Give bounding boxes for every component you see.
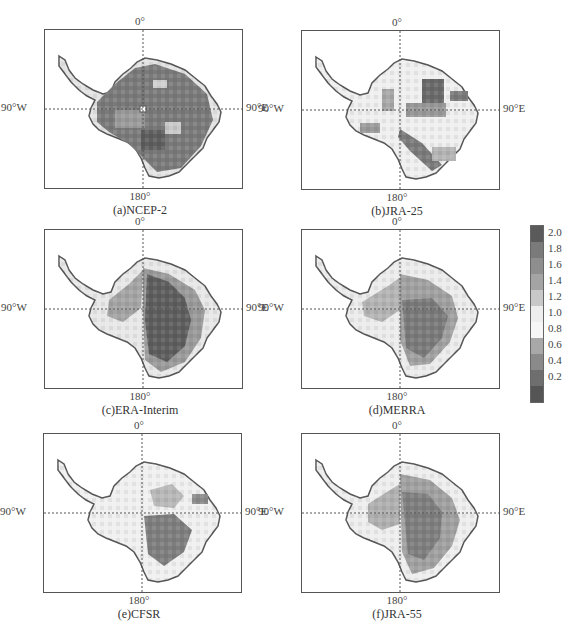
lon-label-90w: 90°W — [258, 102, 284, 114]
lon-label-180: 180° — [387, 390, 408, 402]
colorbar-segment — [531, 242, 543, 258]
colorbar-tick: 0.2 — [548, 370, 562, 382]
lon-label-0: 0° — [392, 215, 402, 227]
colorbar-tick: 0.4 — [548, 354, 562, 366]
panel-d: 0° 180° 90°W 90°E (d)MERRA — [301, 229, 500, 389]
panel-c: 0° 180° 90°W 90°E (c)ERA-Interim — [44, 229, 243, 389]
colorbar-segment — [531, 274, 543, 290]
lon-label-0: 0° — [134, 419, 144, 431]
lon-label-180: 180° — [387, 594, 408, 606]
lon-label-0: 0° — [392, 16, 402, 28]
colorbar-segment — [531, 386, 543, 402]
lon-label-180: 180° — [129, 594, 150, 606]
map-frame — [44, 229, 243, 389]
colorbar-segment — [531, 306, 543, 322]
lon-label-90w: 90°W — [258, 505, 284, 517]
lon-label-90w: 90°W — [0, 505, 26, 517]
map-frame — [301, 433, 500, 593]
map-era-interim — [45, 230, 242, 388]
lon-label-90w: 90°W — [1, 101, 27, 113]
lon-label-90w: 90°W — [258, 301, 284, 313]
map-jra55 — [302, 434, 499, 592]
map-frame — [301, 229, 500, 389]
lon-label-0: 0° — [392, 419, 402, 431]
lon-label-90e: 90°E — [503, 102, 525, 114]
panel-caption: (f)JRA-55 — [372, 607, 421, 622]
colorbar-segment — [531, 258, 543, 274]
panel-f: 0° 180° 90°W 90°E (f)JRA-55 — [301, 433, 500, 593]
lon-label-0: 0° — [135, 15, 145, 27]
colorbar-tick: 0.6 — [548, 338, 562, 350]
colorbar-tick: 0.8 — [548, 322, 562, 334]
colorbar-tick: 1.6 — [548, 258, 562, 270]
colorbar-segment — [531, 322, 543, 338]
panel-caption: (e)CFSR — [118, 607, 161, 622]
map-jra25 — [302, 31, 499, 189]
colorbar-tick: 1.0 — [548, 306, 562, 318]
panel-caption: (d)MERRA — [369, 403, 426, 418]
lon-label-0: 0° — [135, 215, 145, 227]
lon-label-90e: 90°E — [503, 505, 525, 517]
colorbar-segment — [531, 338, 543, 354]
map-frame — [43, 433, 242, 593]
lon-label-90w: 90°W — [1, 301, 27, 313]
panel-a: 0° 180° 90°W 90°E (a)NCEP-2 — [44, 29, 243, 189]
map-merra — [302, 230, 499, 388]
lon-label-180: 180° — [130, 190, 151, 202]
panel-caption: (c)ERA-Interim — [102, 403, 179, 418]
map-ncep2 — [45, 30, 242, 188]
lon-label-180: 180° — [387, 191, 408, 203]
colorbar-tick: 2.0 — [548, 226, 562, 238]
colorbar-tick: 1.4 — [548, 274, 562, 286]
colorbar-segment — [531, 290, 543, 306]
colorbar-tick: 1.8 — [548, 242, 562, 254]
map-frame — [44, 29, 243, 189]
panel-e: 0° 180° 90°W 90°E (e)CFSR — [43, 433, 242, 593]
panel-b: 0° 180° 90°W 90°E (b)JRA-25 — [301, 30, 500, 190]
lon-label-90e: 90°E — [503, 301, 525, 313]
colorbar — [530, 225, 544, 403]
colorbar-tick: 1.2 — [548, 290, 562, 302]
colorbar-segment — [531, 226, 543, 242]
map-frame — [301, 30, 500, 190]
colorbar-segment — [531, 354, 543, 370]
colorbar-segment — [531, 370, 543, 386]
map-cfsr — [44, 434, 241, 592]
lon-label-180: 180° — [130, 390, 151, 402]
